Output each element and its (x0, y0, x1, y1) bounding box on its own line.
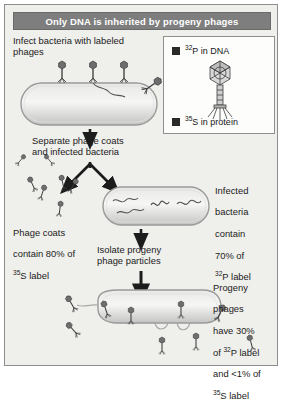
figure-panel: Only DNA is inherited by progeny phages … (4, 4, 278, 366)
caption-progeny-phages: Progeny phages have 30% of 32P label and… (213, 272, 285, 402)
caption-phage-coats: Phage coats contain 80% of 35S label (13, 217, 105, 282)
step-3-label: Isolate progeny phage particles (97, 245, 207, 267)
bacterium-top (21, 83, 157, 125)
bacterium-middle (103, 187, 209, 225)
step-2-label: Separate phage coats and infected bacter… (32, 136, 162, 158)
bacterium-bottom-lysing (77, 290, 221, 330)
caption-infected-bacteria: Infected bacteria contain 70% of 32P lab… (215, 175, 285, 283)
